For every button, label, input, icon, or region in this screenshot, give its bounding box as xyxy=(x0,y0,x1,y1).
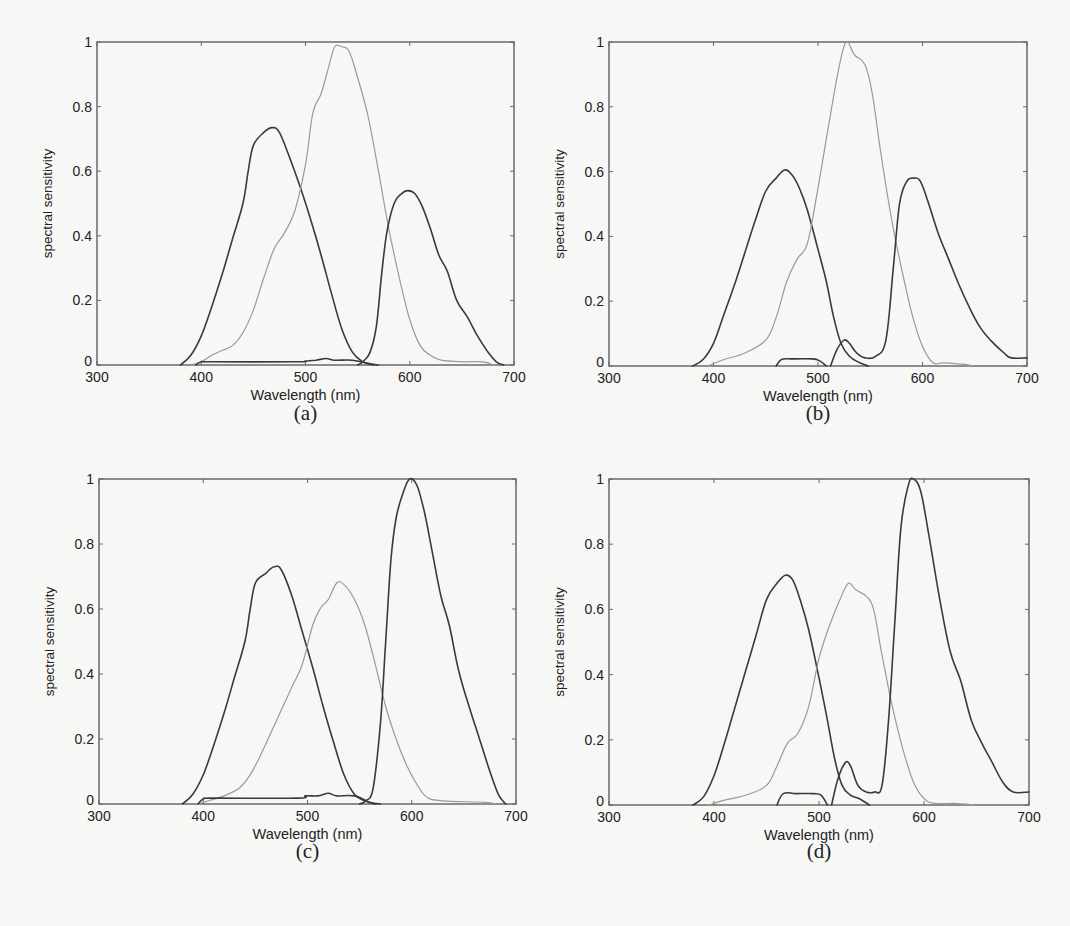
y-tick-label: 0.6 xyxy=(585,601,605,617)
curve-baseline xyxy=(196,359,379,366)
y-axis-label: spectral sensitivity xyxy=(40,148,55,258)
y-tick-label: 1 xyxy=(84,34,92,50)
panel-b: 30040050060070000.20.40.60.81Wavelength … xyxy=(552,34,1039,425)
curve-long-wavelength xyxy=(358,191,504,365)
curve-plateau xyxy=(776,359,826,366)
x-tick-label: 700 xyxy=(1017,809,1041,825)
figure: 30040050060070000.20.40.60.81Wavelength … xyxy=(0,0,1070,926)
y-tick-label: 0.6 xyxy=(75,601,95,617)
x-tick-label: 300 xyxy=(87,808,111,824)
x-tick-label: 400 xyxy=(702,370,726,386)
y-axis-label: spectral sensitivity xyxy=(552,587,567,697)
x-tick-label: 400 xyxy=(190,369,214,385)
y-tick-label: 0.8 xyxy=(75,536,95,552)
x-tick-label: 400 xyxy=(702,809,726,825)
y-tick-label: 1 xyxy=(596,471,604,487)
panel-a: 30040050060070000.20.40.60.81Wavelength … xyxy=(40,34,526,425)
y-tick-label: 0.2 xyxy=(585,732,605,748)
y-tick-label: 0.8 xyxy=(73,99,93,115)
y-tick-label: 0 xyxy=(86,792,94,808)
x-tick-label: 500 xyxy=(294,369,318,385)
y-tick-label: 0.4 xyxy=(73,228,93,244)
panel-d: 30040050060070000.20.40.60.81Wavelength … xyxy=(552,471,1041,863)
curve-medium-wavelength xyxy=(708,42,972,366)
x-tick-label: 600 xyxy=(398,369,422,385)
curve-short-wavelength xyxy=(693,170,869,366)
y-tick-label: 0.4 xyxy=(585,228,605,244)
y-tick-label: 1 xyxy=(86,471,94,487)
curve-short-wavelength xyxy=(693,575,869,805)
x-tick-label: 500 xyxy=(296,808,320,824)
y-tick-label: 0 xyxy=(596,354,604,370)
curve-short-wavelength xyxy=(182,566,375,804)
x-tick-label: 700 xyxy=(504,808,528,824)
x-tick-label: 500 xyxy=(807,809,831,825)
curve-medium-wavelength xyxy=(191,45,493,365)
y-tick-label: 1 xyxy=(596,34,604,50)
curve-plateau xyxy=(777,793,827,805)
x-tick-label: 700 xyxy=(502,369,526,385)
panel-caption: (a) xyxy=(294,401,317,425)
y-tick-label: 0 xyxy=(596,793,604,809)
y-tick-label: 0.4 xyxy=(585,667,605,683)
curve-long-wavelength xyxy=(832,478,1029,805)
x-tick-label: 300 xyxy=(597,809,621,825)
y-tick-label: 0.2 xyxy=(73,292,93,308)
panel-caption: (d) xyxy=(807,839,832,863)
curve-long-wavelength xyxy=(831,178,1028,366)
panel-caption: (b) xyxy=(806,401,831,425)
curve-medium-wavelength xyxy=(709,583,975,805)
axes-frame xyxy=(609,479,1029,805)
curve-short-wavelength xyxy=(180,128,373,365)
x-tick-label: 400 xyxy=(192,808,216,824)
panel-c: 30040050060070000.20.40.60.81Wavelength … xyxy=(42,471,528,863)
y-axis-label: spectral sensitivity xyxy=(42,586,57,696)
curve-long-wavelength xyxy=(360,479,506,804)
y-axis-label: spectral sensitivity xyxy=(552,149,567,259)
y-tick-label: 0 xyxy=(84,353,92,369)
y-tick-label: 0.2 xyxy=(75,731,95,747)
axes-frame xyxy=(609,42,1027,366)
panel-caption: (c) xyxy=(296,839,319,863)
x-tick-label: 300 xyxy=(85,369,109,385)
y-tick-label: 0.6 xyxy=(73,163,93,179)
y-tick-label: 0.2 xyxy=(585,293,605,309)
x-tick-label: 600 xyxy=(911,370,935,386)
x-tick-label: 600 xyxy=(912,809,936,825)
y-tick-label: 0.8 xyxy=(585,99,605,115)
x-tick-label: 300 xyxy=(597,370,621,386)
y-tick-label: 0.8 xyxy=(585,536,605,552)
y-tick-label: 0.4 xyxy=(75,666,95,682)
x-tick-label: 500 xyxy=(806,370,830,386)
x-tick-label: 700 xyxy=(1015,370,1039,386)
y-tick-label: 0.6 xyxy=(585,164,605,180)
curve-medium-wavelength xyxy=(198,582,495,804)
x-tick-label: 600 xyxy=(400,808,424,824)
